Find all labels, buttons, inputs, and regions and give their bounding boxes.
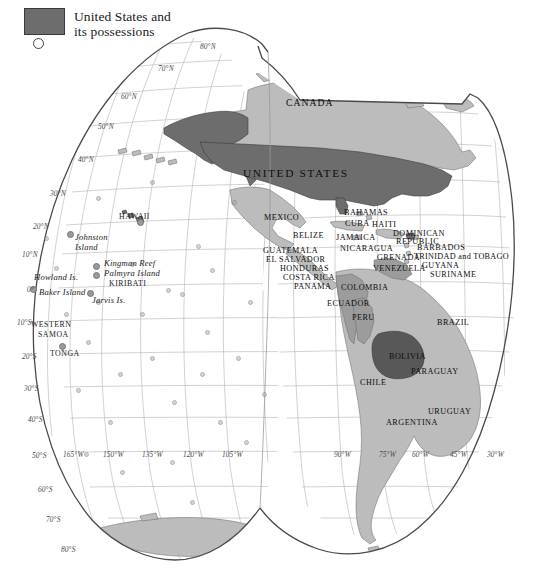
island-marker-dot xyxy=(87,290,94,297)
map-screenshot: United States and its possessions CANADA… xyxy=(0,0,552,571)
island-marker-dot xyxy=(59,343,66,350)
legend-circle-symbol xyxy=(33,38,44,49)
land-other xyxy=(100,54,502,556)
map-legend: United States and its possessions xyxy=(24,8,171,39)
island-marker-dot xyxy=(67,231,74,238)
legend-label: United States and its possessions xyxy=(74,8,171,39)
legend-swatch-us-possessions xyxy=(24,8,65,35)
island-marker-dot xyxy=(93,263,100,270)
island-marker-dot xyxy=(137,219,144,226)
island-marker-dot xyxy=(93,272,100,279)
map-canvas xyxy=(0,0,552,571)
island-marker-dot xyxy=(30,286,37,293)
